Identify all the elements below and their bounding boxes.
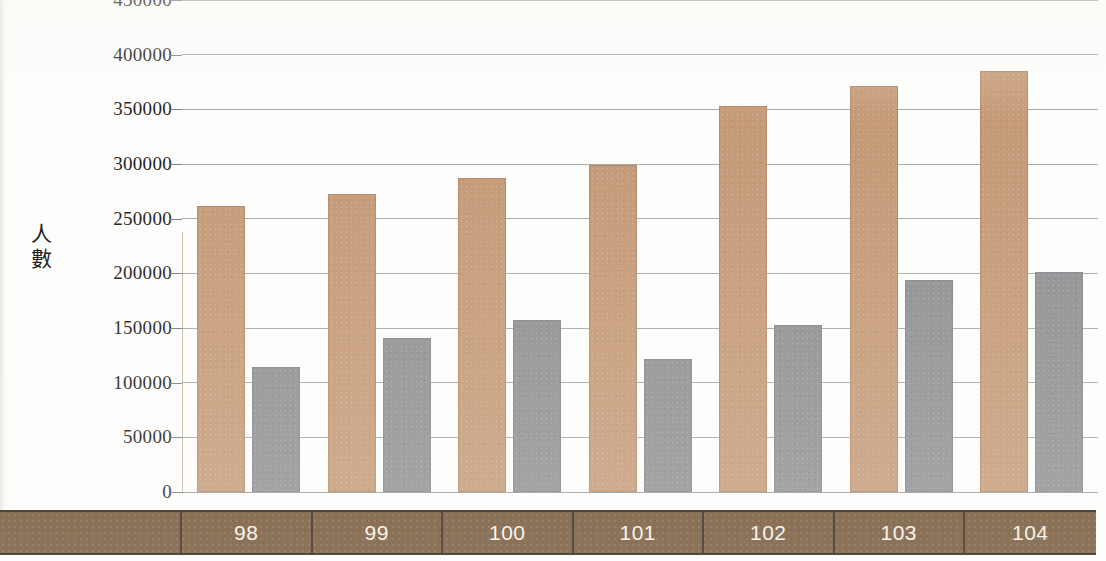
y-tick-mark (170, 109, 182, 110)
category-cell-99: 99 (313, 512, 444, 553)
y-tick-mark (170, 273, 182, 274)
category-cell-102: 102 (704, 512, 835, 553)
bar-series-a-99 (328, 194, 376, 492)
y-tick-label: 350000 (113, 98, 172, 120)
bar-series-b-103 (905, 280, 953, 492)
y-tick-mark (170, 383, 182, 384)
bar-series-b-104 (1035, 272, 1083, 492)
gridline (182, 54, 1098, 55)
bar-series-b-100 (513, 320, 561, 492)
bar-series-b-101 (644, 359, 692, 492)
gridline (182, 382, 1098, 383)
category-row-label-cell (0, 512, 182, 553)
category-cell-101: 101 (574, 512, 705, 553)
y-tick-mark (170, 328, 182, 329)
band-right-margin (1096, 510, 1106, 555)
y-tick-mark (170, 55, 182, 56)
y-axis-title-char-2: 數 (28, 247, 54, 272)
bar-series-b-99 (383, 338, 431, 492)
category-cell-104: 104 (965, 512, 1096, 553)
y-tick-label: 400000 (113, 44, 172, 66)
y-axis-title: 人 數 (28, 222, 54, 272)
bar-series-a-100 (458, 178, 506, 492)
page-edge-shadow (0, 0, 6, 510)
bar-series-a-98 (197, 206, 245, 492)
bar-series-a-102 (719, 106, 767, 492)
bar-series-a-104 (980, 71, 1028, 492)
bar-series-b-102 (774, 325, 822, 492)
y-tick-mark (170, 492, 182, 493)
y-tick-label: 450000 (113, 0, 172, 11)
y-tick-label: 300000 (113, 153, 172, 175)
gridline (182, 492, 1098, 493)
gridline (182, 328, 1098, 329)
y-tick-label: 200000 (113, 262, 172, 284)
gridline (182, 218, 1098, 219)
bar-series-b-98 (252, 367, 300, 492)
gridline (182, 164, 1098, 165)
gridline (182, 437, 1098, 438)
y-tick-mark (170, 219, 182, 220)
gridline (182, 273, 1098, 274)
category-cell-103: 103 (835, 512, 966, 553)
plot-area (182, 0, 1098, 492)
y-tick-label: 250000 (113, 208, 172, 230)
bar-chart: 人 數 050000100000150000200000250000300000… (0, 0, 1106, 561)
y-tick-label: 150000 (113, 317, 172, 339)
bar-series-a-101 (589, 165, 637, 492)
gridline (182, 0, 1098, 1)
y-tick-label: 50000 (123, 426, 172, 448)
y-tick-label: 100000 (113, 372, 172, 394)
gridline (182, 109, 1098, 110)
y-axis-title-char-1: 人 (28, 222, 54, 247)
y-tick-mark (170, 164, 182, 165)
bar-series-a-103 (850, 86, 898, 492)
y-tick-mark (170, 0, 182, 1)
category-cell-98: 98 (182, 512, 313, 553)
category-axis-band: 9899100101102103104 (0, 510, 1096, 555)
category-cell-100: 100 (443, 512, 574, 553)
y-tick-mark (170, 437, 182, 438)
